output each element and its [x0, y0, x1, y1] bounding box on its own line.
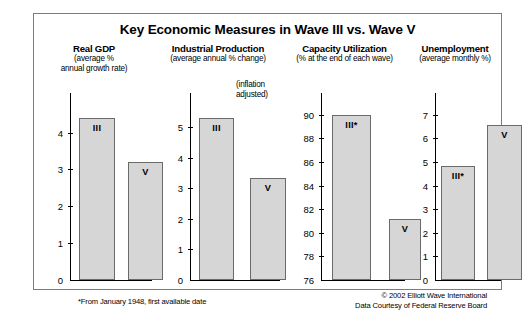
- panel-heading-capacity-utilization: Capacity Utilization(% at the end of eac…: [282, 43, 407, 64]
- panel-annotation-industrial-production: (inflationadjusted): [236, 80, 268, 100]
- y-axis-industrial-production: [190, 93, 191, 281]
- y-tick-real-gdp-1: [68, 243, 73, 244]
- y-tick-label-industrial-production-2: 2: [154, 215, 183, 224]
- y-tick-label-real-gdp-4: 4: [34, 129, 63, 138]
- y-tick-industrial-production-1: [188, 249, 193, 250]
- panel-annotation-line-1: adjusted): [236, 90, 268, 100]
- panel-heading-real-gdp: Real GDP(average %annual growth rate): [34, 43, 154, 74]
- y-tick-label-industrial-production-5: 5: [154, 123, 183, 132]
- panel-annotation-line-0: (inflation: [236, 80, 268, 90]
- y-tick-label-real-gdp-0: 0: [34, 276, 63, 285]
- credit-block: © 2002 Elliott Wave International Data C…: [355, 291, 487, 310]
- y-tick-label-unemployment-0: 0: [407, 276, 428, 285]
- y-tick-label-capacity-utilization-7: 90: [282, 111, 314, 120]
- y-tick-unemployment-6: [433, 138, 438, 139]
- bar-industrial-production-V: V: [250, 178, 286, 280]
- y-tick-label-unemployment-6: 6: [407, 134, 428, 143]
- y-axis-unemployment: [435, 93, 436, 281]
- y-tick-label-industrial-production-1: 1: [154, 245, 183, 254]
- y-tick-industrial-production-2: [188, 219, 193, 220]
- y-tick-capacity-utilization-6: [319, 138, 324, 139]
- panel-heading-industrial-production: Industrial Production(average annual % c…: [154, 43, 282, 64]
- y-axis-capacity-utilization: [321, 93, 322, 281]
- panel-title-industrial-production: Industrial Production: [154, 43, 282, 54]
- y-tick-capacity-utilization-1: [319, 256, 324, 257]
- bar-label-industrial-production-0: III: [200, 123, 233, 133]
- y-tick-industrial-production-4: [188, 158, 193, 159]
- y-tick-industrial-production-3: [188, 188, 193, 189]
- bar-label-industrial-production-1: V: [251, 183, 285, 193]
- panel-subtitle-line2-real-gdp: annual growth rate): [34, 64, 154, 74]
- y-tick-label-industrial-production-0: 0: [154, 276, 183, 285]
- bar-label-real-gdp-0: III: [80, 123, 114, 133]
- y-tick-label-capacity-utilization-4: 84: [282, 182, 314, 191]
- bar-label-unemployment-0: III*: [442, 171, 474, 181]
- panel-title-real-gdp: Real GDP: [34, 43, 154, 54]
- y-tick-label-real-gdp-3: 3: [34, 165, 63, 174]
- x-axis-unemployment: [435, 280, 501, 281]
- y-tick-label-capacity-utilization-2: 80: [282, 229, 314, 238]
- panel-title-capacity-utilization: Capacity Utilization: [282, 43, 407, 54]
- bar-unemployment-V: V: [487, 125, 522, 280]
- y-tick-label-industrial-production-3: 3: [154, 184, 183, 193]
- bar-label-unemployment-1: V: [488, 130, 521, 140]
- y-tick-label-industrial-production-4: 4: [154, 154, 183, 163]
- y-tick-capacity-utilization-2: [319, 233, 324, 234]
- y-tick-label-capacity-utilization-3: 82: [282, 205, 314, 214]
- y-axis-real-gdp: [70, 93, 71, 281]
- bar-industrial-production-III: III: [199, 118, 234, 280]
- y-tick-label-unemployment-1: 1: [407, 252, 428, 261]
- y-tick-label-unemployment-5: 5: [407, 158, 428, 167]
- y-tick-label-unemployment-4: 4: [407, 182, 428, 191]
- y-tick-capacity-utilization-7: [319, 115, 324, 116]
- y-tick-label-capacity-utilization-0: 76: [282, 276, 314, 285]
- y-tick-real-gdp-4: [68, 133, 73, 134]
- y-tick-label-real-gdp-1: 1: [34, 239, 63, 248]
- bar-unemployment-IIIstar: III*: [441, 166, 475, 280]
- bar-label-capacity-utilization-0: III*: [333, 120, 370, 130]
- y-tick-capacity-utilization-3: [319, 209, 324, 210]
- bar-real-gdp-III: III: [79, 118, 115, 280]
- panel-real-gdp: Real GDP(average %annual growth rate)012…: [34, 14, 154, 291]
- credit-line-1: © 2002 Elliott Wave International: [355, 291, 487, 301]
- chart-frame: Key Economic Measures in Wave III vs. Wa…: [33, 13, 502, 290]
- x-axis-real-gdp: [70, 280, 152, 281]
- y-tick-capacity-utilization-4: [319, 186, 324, 187]
- y-tick-label-capacity-utilization-6: 88: [282, 134, 314, 143]
- panel-subtitle-line1-industrial-production: (average annual % change): [154, 54, 282, 64]
- credit-line-2: Data Courtesy of Federal Reserve Board: [355, 301, 487, 311]
- panel-subtitle-line1-real-gdp: (average %: [34, 54, 154, 64]
- y-tick-real-gdp-3: [68, 169, 73, 170]
- footnote-text: *From January 1948, first available date: [78, 297, 206, 307]
- panel-title-unemployment: Unemployment: [407, 43, 503, 54]
- y-tick-industrial-production-5: [188, 127, 193, 128]
- y-tick-label-unemployment-3: 3: [407, 205, 428, 214]
- y-tick-capacity-utilization-5: [319, 162, 324, 163]
- panel-unemployment: Unemployment(average monthly %)01234567I…: [407, 14, 503, 291]
- y-tick-unemployment-2: [433, 233, 438, 234]
- y-tick-unemployment-5: [433, 162, 438, 163]
- panel-subtitle-line1-unemployment: (average monthly %): [407, 54, 503, 64]
- y-tick-label-unemployment-7: 7: [407, 111, 428, 120]
- y-tick-unemployment-3: [433, 209, 438, 210]
- y-tick-real-gdp-2: [68, 206, 73, 207]
- panel-industrial-production: Industrial Production(average annual % c…: [154, 14, 282, 291]
- y-tick-label-unemployment-2: 2: [407, 229, 428, 238]
- bar-capacity-utilization-IIIstar: III*: [332, 115, 371, 280]
- y-tick-label-real-gdp-2: 2: [34, 202, 63, 211]
- panel-heading-unemployment: Unemployment(average monthly %): [407, 43, 503, 64]
- y-tick-unemployment-4: [433, 186, 438, 187]
- y-tick-unemployment-1: [433, 256, 438, 257]
- y-tick-label-capacity-utilization-5: 86: [282, 158, 314, 167]
- panel-capacity-utilization: Capacity Utilization(% at the end of eac…: [282, 14, 407, 291]
- y-tick-unemployment-7: [433, 115, 438, 116]
- panel-subtitle-line1-capacity-utilization: (% at the end of each wave): [282, 54, 407, 64]
- y-tick-label-capacity-utilization-1: 78: [282, 252, 314, 261]
- x-axis-industrial-production: [190, 280, 280, 281]
- x-axis-capacity-utilization: [321, 280, 405, 281]
